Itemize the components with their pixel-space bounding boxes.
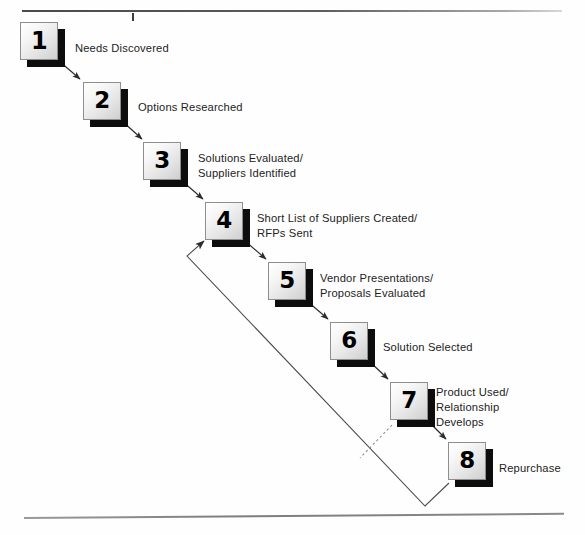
step-box-3[interactable]: 3: [143, 142, 181, 180]
horizontal-rule-top: [22, 10, 562, 12]
box-face: 1: [20, 22, 58, 60]
step-box-5[interactable]: 5: [268, 262, 306, 300]
box-face: 2: [83, 82, 121, 120]
step-number: 8: [459, 449, 475, 472]
step-box-2[interactable]: 2: [83, 82, 121, 120]
step-number: 1: [31, 29, 47, 53]
step-box-7[interactable]: 7: [390, 382, 428, 420]
step-label-2: Options Researched: [138, 100, 243, 115]
box-face: 4: [205, 202, 243, 240]
step-label-3: Solutions Evaluated/ Suppliers Identifie…: [198, 151, 303, 181]
step-box-4[interactable]: 4: [205, 202, 243, 240]
box-face: 5: [268, 262, 306, 300]
step-box-1[interactable]: 1: [20, 22, 58, 60]
step-label-4: Short List of Suppliers Created/ RFPs Se…: [257, 211, 417, 241]
step-label-8: Repurchase: [499, 461, 561, 476]
step-label-5: Vendor Presentations/ Proposals Evaluate…: [320, 271, 433, 301]
step-label-6: Solution Selected: [383, 340, 473, 355]
rule-tick-mark: [132, 13, 134, 21]
step-label-7: Product Used/ Relationship Develops: [436, 385, 509, 430]
step-number: 7: [401, 389, 417, 412]
box-face: 6: [330, 322, 368, 360]
step-number: 6: [341, 329, 357, 352]
box-face: 3: [143, 142, 181, 180]
step-number: 5: [279, 269, 295, 292]
box-face: 7: [390, 382, 428, 420]
step-label-1: Needs Discovered: [75, 41, 169, 56]
dashed-link-7-to-feedback: [360, 425, 392, 458]
horizontal-rule-bottom: [24, 513, 564, 519]
box-face: 8: [448, 442, 486, 480]
step-number: 3: [154, 149, 170, 172]
diagram-canvas: 1 2 3 4 5 6 7: [0, 0, 585, 535]
step-box-8[interactable]: 8: [448, 442, 486, 480]
step-number: 2: [94, 89, 110, 112]
step-box-6[interactable]: 6: [330, 322, 368, 360]
step-number: 4: [216, 209, 232, 232]
